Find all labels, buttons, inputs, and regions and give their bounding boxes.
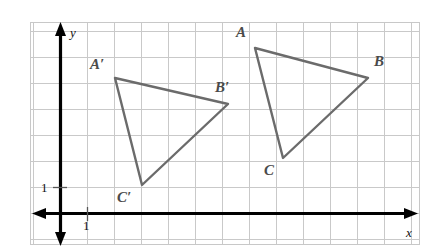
plot-frame bbox=[31, 23, 420, 245]
vertex-label-c-prime: C′ bbox=[117, 190, 131, 205]
vertex-label-a: A bbox=[236, 25, 246, 40]
y-axis-label: y bbox=[70, 26, 76, 39]
y-tick-label-1: 1 bbox=[41, 181, 48, 194]
graph-canvas bbox=[0, 0, 428, 251]
coordinate-plane-figure: y x 1 1 A B C A′ B′ C′ bbox=[0, 0, 428, 251]
vertex-label-b: B bbox=[374, 54, 384, 69]
vertex-label-a-prime: A′ bbox=[90, 57, 104, 72]
vertex-label-b-prime: B′ bbox=[215, 80, 229, 95]
vertex-label-c: C bbox=[264, 163, 274, 178]
x-axis-label: x bbox=[406, 226, 412, 239]
x-tick-label-1: 1 bbox=[83, 219, 90, 232]
